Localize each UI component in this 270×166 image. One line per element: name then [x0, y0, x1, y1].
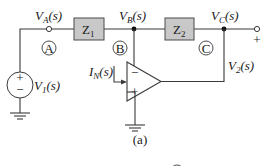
ground-icon-left — [10, 113, 30, 119]
output-terminal — [254, 26, 259, 31]
current-in-arrow-line — [114, 66, 124, 82]
cropped-marker-icon — [170, 165, 184, 166]
source-label: V1(s) — [34, 78, 60, 95]
ground-icon-opamp — [125, 125, 145, 131]
node-c-marker-letter: C — [202, 41, 211, 56]
current-label: IN(s) — [88, 64, 113, 81]
node-a-label: VA(s) — [35, 8, 62, 25]
figure-caption: (a) — [133, 132, 147, 147]
source-minus-sign: − — [16, 82, 23, 97]
node-c-label: VC(s) — [211, 8, 239, 25]
current-arrowhead-icon — [121, 80, 127, 85]
output-voltage-label: V2(s) — [228, 58, 254, 75]
output-plus-sign: + — [253, 32, 260, 47]
node-b-marker-letter: B — [116, 41, 125, 56]
circuit-diagram: Z1 Z2 VA(s) VB(s) VC(s) A B C + + − V1(s… — [0, 0, 270, 166]
opamp-inverting-sign: − — [131, 65, 138, 80]
node-b-label: VB(s) — [119, 8, 146, 25]
node-a-terminal — [46, 26, 51, 31]
node-a-marker-letter: A — [44, 41, 54, 56]
